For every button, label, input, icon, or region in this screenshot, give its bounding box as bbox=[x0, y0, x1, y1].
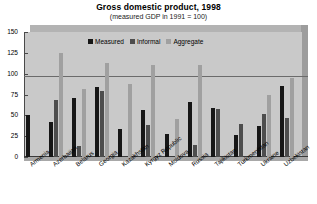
x-tick-label: Ukraine bbox=[259, 149, 280, 168]
x-tick-label: Georgia bbox=[97, 148, 119, 167]
x-axis-labels: ArmeniaAzerbaijanBelarusGeorgiaKazakhsta… bbox=[0, 0, 317, 204]
x-tick-label: Uzbekistan bbox=[282, 143, 310, 167]
x-tick-label: Tajikistan bbox=[213, 146, 237, 167]
chart-container: Gross domestic product, 1998 (measured G… bbox=[0, 0, 317, 204]
x-tick-label: Azerbaijan bbox=[51, 144, 78, 168]
x-tick-label: Russia bbox=[190, 150, 209, 167]
x-tick-label: Armenia bbox=[28, 148, 50, 168]
x-tick-label: Belarus bbox=[74, 149, 95, 167]
x-tick-label: Moldova bbox=[167, 148, 190, 168]
